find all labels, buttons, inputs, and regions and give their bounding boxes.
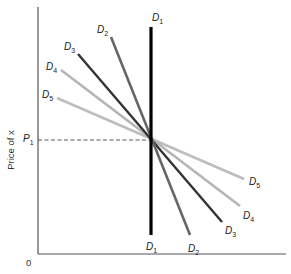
d4-top-label: D4 — [46, 61, 57, 74]
d3-top-label: D3 — [64, 41, 75, 54]
d5-top-label: D5 — [42, 89, 53, 102]
demand-elasticity-chart: 0Price of x P1 D1D1D2D2D3D3D4D4D5D5 — [0, 0, 291, 274]
d4-bottom-label: D4 — [243, 210, 254, 223]
p1-label: P1 — [23, 133, 34, 146]
origin-label: 0 — [26, 257, 31, 268]
d1-top-label: D1 — [152, 12, 163, 25]
d5-bottom-label: D5 — [249, 176, 260, 189]
d3-bottom-label: D3 — [225, 225, 236, 238]
d2-bottom-label: D2 — [188, 243, 199, 256]
demand-curves — [57, 27, 244, 235]
d2-top-label: D2 — [97, 24, 108, 37]
price-reference-line: P1 — [23, 133, 151, 146]
d1-bottom-label: D1 — [146, 241, 157, 254]
y-axis-label: Price of x — [5, 130, 16, 170]
